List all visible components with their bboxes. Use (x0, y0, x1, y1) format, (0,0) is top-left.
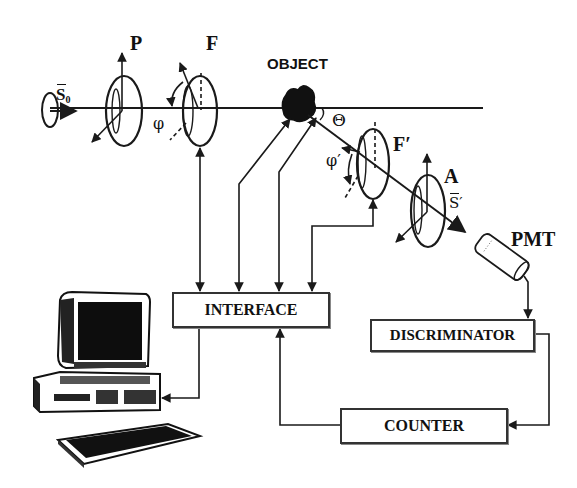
scattered-beam (308, 115, 465, 232)
counter-block: COUNTER (340, 408, 508, 444)
scattered-vector-label: S′ (449, 196, 463, 211)
filter-f-icon (170, 63, 217, 146)
interface-block: INTERFACE (172, 292, 330, 328)
source-vector-label: S0 (56, 86, 70, 105)
phi-label: φ (153, 116, 164, 132)
discriminator-block: DISCRIMINATOR (370, 319, 535, 352)
filter-prime-label: F′ (393, 134, 411, 154)
overbar (57, 84, 66, 85)
polarizer-label: P (130, 33, 142, 53)
analyzer-label: A (444, 166, 458, 186)
discriminator-label: DISCRIMINATOR (390, 327, 515, 344)
interface-label: INTERFACE (204, 301, 297, 319)
theta-label: Θ (332, 112, 346, 129)
phi-prime-label: φ′ (326, 153, 341, 169)
pmt-label: PMT (511, 229, 555, 249)
counter-label: COUNTER (384, 417, 464, 435)
filter-label: F (206, 33, 218, 53)
analyzer-a-icon (396, 154, 445, 247)
object-label: OBJECT (267, 56, 328, 71)
filter-f-prime-icon (342, 122, 389, 199)
overbar (450, 193, 459, 194)
polarizer-p-icon (92, 53, 142, 146)
